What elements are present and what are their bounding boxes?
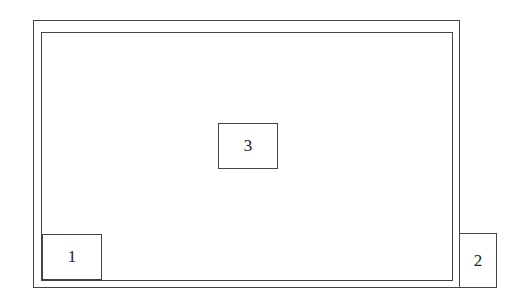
box-3: 3 xyxy=(218,123,278,169)
box-1: 1 xyxy=(42,234,102,280)
box-2: 2 xyxy=(459,233,497,288)
box-2-label: 2 xyxy=(474,251,483,271)
box-3-label: 3 xyxy=(244,136,253,156)
box-1-label: 1 xyxy=(68,247,77,267)
